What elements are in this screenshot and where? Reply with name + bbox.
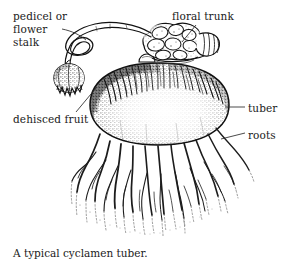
- figure-page: pedicel or flower stalk dehisced fruit f…: [0, 0, 289, 267]
- label-tuber: tuber: [248, 102, 277, 115]
- label-roots: roots: [248, 129, 276, 142]
- dehisced-fruit: [52, 60, 88, 96]
- tuber-body: [86, 60, 236, 150]
- label-dehisced-fruit: dehisced fruit: [13, 113, 88, 126]
- leader-roots: [221, 133, 245, 139]
- figure-caption: A typical cyclamen tuber.: [13, 247, 148, 259]
- label-pedicel-flower-stalk: pedicel or flower stalk: [13, 10, 67, 48]
- floral-trunk-branch: [196, 33, 219, 57]
- floral-trunk: [139, 18, 220, 66]
- label-floral-trunk: floral trunk: [172, 10, 234, 23]
